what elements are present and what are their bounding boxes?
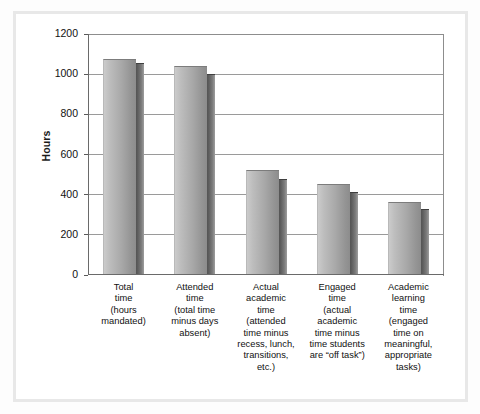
bar-academic-learning-time	[388, 33, 429, 274]
y-axis-tick-label: 200	[22, 229, 78, 239]
x-label-detail-line: meaningful,	[367, 339, 450, 350]
bar-front-face	[317, 184, 350, 274]
bar-side-face	[278, 179, 287, 274]
bar-total-time	[103, 33, 144, 274]
bar-front-face	[103, 59, 136, 274]
x-label-detail-line: tasks)	[367, 362, 450, 373]
x-label-detail-line: (engaged	[367, 316, 450, 327]
bar-front-face	[174, 66, 207, 274]
bar-side-face	[206, 74, 215, 274]
y-axis-tick-label: 1000	[22, 68, 78, 78]
x-label-heading-line: Academic	[367, 282, 450, 293]
bar-side-face	[420, 209, 429, 274]
chart-page: Hours 120010008006004002000 Totaltime(ho…	[0, 0, 480, 414]
x-label-heading-line: learning	[367, 293, 450, 304]
y-axis-tick-label: 400	[22, 189, 78, 199]
y-axis-tick-label: 800	[22, 108, 78, 118]
bar-side-face	[349, 192, 358, 274]
x-label-detail-line: etc.)	[224, 362, 307, 373]
x-axis-label-academic-learning-time: Academiclearningtime(engagedtime onmeani…	[367, 282, 450, 373]
bar-engaged-time	[317, 33, 358, 274]
y-axis-tick-label: 0	[22, 269, 78, 279]
bar-actual-academic-time	[246, 33, 287, 274]
x-label-detail-line: time on	[367, 328, 450, 339]
bar-side-face	[135, 63, 144, 274]
bar-attended-time	[174, 33, 215, 274]
bar-chart: Hours 120010008006004002000 Totaltime(ho…	[0, 0, 480, 414]
bar-front-face	[388, 202, 421, 274]
x-label-detail-line: appropriate	[367, 350, 450, 361]
plot-area	[88, 34, 444, 275]
y-axis-tick-label: 600	[22, 149, 78, 159]
x-label-heading-line: time	[367, 305, 450, 316]
y-axis-tick-label: 1200	[22, 28, 78, 38]
bar-front-face	[246, 170, 279, 274]
